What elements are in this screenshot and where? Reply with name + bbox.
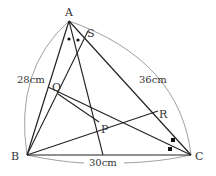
label-c: C [195, 150, 203, 163]
label-a: A [64, 6, 74, 19]
angle-mark-dot-1 [67, 37, 70, 40]
angle-mark-square-1 [171, 138, 175, 142]
dimension-arc-bc-left [27, 155, 84, 163]
label-p: P [101, 123, 109, 136]
bisector-c [48, 87, 191, 155]
label-s: S [87, 27, 95, 40]
dimension-label-ac: 36cm [139, 74, 167, 85]
dimension-label-bc: 30cm [89, 157, 117, 168]
geometry-diagram: A B C S Q P R 28cm 36cm 30cm [0, 0, 216, 176]
angle-mark-square-2 [168, 147, 172, 151]
side-ab [27, 21, 69, 155]
dimension-label-ab: 28cm [17, 74, 45, 85]
diagram-canvas: A B C S Q P R 28cm 36cm 30cm [0, 0, 216, 176]
label-q: Q [52, 81, 61, 94]
label-r: R [159, 108, 168, 121]
dimension-arc-bc-right [124, 155, 191, 163]
angle-mark-dot-2 [76, 38, 79, 41]
label-b: B [11, 150, 19, 163]
